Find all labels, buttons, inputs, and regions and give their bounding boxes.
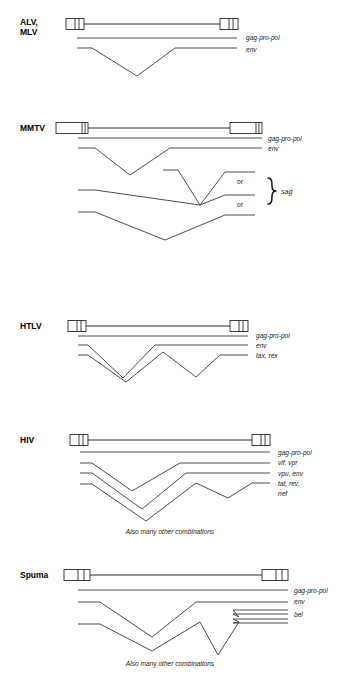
note-spuma-combinations: Also many other combinations <box>125 660 215 668</box>
gene-label-spuma-gag: gag-pro-pol <box>294 587 328 595</box>
panel-spuma: Spuma gag-pro-pol env <box>20 570 328 669</box>
gene-label-htlv-taxrex: tax, rex <box>256 352 278 359</box>
gene-label-mmtv-gag: gag-pro-pol <box>268 135 302 143</box>
panel-hiv: HIV gag-pro-pol vif, vpr vpu, env <box>20 435 312 537</box>
ltr-left-spuma <box>64 570 90 581</box>
gene-label-hiv-tatrev: tat, rev, <box>278 480 300 487</box>
genome-line-htlv <box>68 321 248 332</box>
virus-label-mmtv: MMTV <box>20 123 45 133</box>
genome-line-mmtv <box>56 123 262 134</box>
virus-label-spuma: Spuma <box>20 570 49 580</box>
sag-brace <box>268 178 276 204</box>
transcript-mmtv-sag-2 <box>78 190 255 205</box>
gene-label-hiv-vifvpr: vif, vpr <box>278 459 298 467</box>
ltr-right-spuma <box>262 570 288 581</box>
panel-alv-mlv: ALV, MLV gag-pro-pol env <box>20 17 280 76</box>
transcript-alv-env <box>77 48 237 76</box>
note-hiv-combinations: Also many other combinations <box>125 528 215 536</box>
genome-line-spuma <box>64 570 288 581</box>
bracket-label-mmtv-sag: sag <box>281 188 292 196</box>
transcript-mmtv-sag-1 <box>163 170 255 205</box>
transcript-hiv-vpuenv <box>80 473 270 509</box>
ltr-right-mmtv <box>230 123 262 134</box>
transcript-htlv-env <box>78 345 248 378</box>
genome-line-alv <box>66 19 238 30</box>
retroviral-splicing-figure: ALV, MLV gag-pro-pol env M <box>0 0 338 681</box>
gene-label-hiv-nef: nef <box>278 490 288 497</box>
virus-label-alv-line1: ALV, <box>20 17 38 27</box>
virus-label-hiv: HIV <box>20 435 35 445</box>
gene-label-htlv-gag: gag-pro-pol <box>256 332 290 340</box>
transcript-mmtv-env <box>78 148 262 175</box>
panel-mmtv: MMTV gag-pro-pol env or <box>20 123 302 241</box>
gene-label-spuma-bel: bel <box>294 611 303 618</box>
transcript-hiv-vifvpr <box>80 463 270 491</box>
figure-canvas: ALV, MLV gag-pro-pol env M <box>0 0 338 681</box>
gene-label-hiv-gag: gag-pro-pol <box>278 449 312 457</box>
gene-label-hiv-vpuenv: vpu, env <box>278 470 304 478</box>
transcript-spuma-multispliced <box>78 622 239 655</box>
gene-label-htlv-env: env <box>256 342 267 349</box>
gene-label-alv-env: env <box>246 46 257 53</box>
cropped-caption-sliver <box>0 0 338 6</box>
genome-line-hiv <box>70 435 270 446</box>
transcript-hiv-tatrevnef <box>80 483 270 521</box>
or-label-mmtv-1: or <box>237 178 244 185</box>
panel-htlv: HTLV gag-pro-pol env tax, rex <box>20 321 290 383</box>
transcript-mmtv-sag-3 <box>78 212 255 240</box>
gene-label-mmtv-env: env <box>268 145 279 152</box>
transcript-htlv-taxrex <box>78 352 248 382</box>
virus-label-alv-line2: MLV <box>20 27 38 37</box>
or-label-mmtv-2: or <box>237 201 244 208</box>
ltr-left-mmtv <box>56 123 88 134</box>
gene-label-alv-gag: gag-pro-pol <box>246 34 280 42</box>
virus-label-htlv: HTLV <box>20 321 42 331</box>
gene-label-spuma-env: env <box>294 598 305 605</box>
